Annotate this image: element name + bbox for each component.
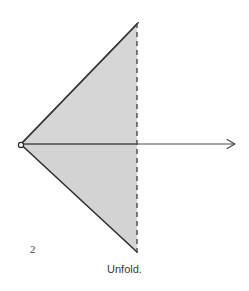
origami-diagram-svg	[0, 0, 249, 291]
origami-figure: 2 Unfold.	[0, 0, 249, 291]
pivot-point-marker	[18, 142, 23, 147]
step-number: 2	[30, 243, 36, 256]
caption: Unfold.	[0, 262, 249, 276]
